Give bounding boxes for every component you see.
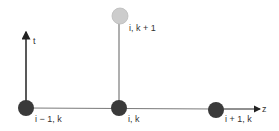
stencil-diagram: t z i − 1, k i, k i + 1, k i, k + 1	[0, 0, 279, 131]
label-i-k-plus-1: i, k + 1	[129, 23, 156, 33]
z-axis-label: z	[262, 104, 267, 114]
label-i-plus-1-k: i + 1, k	[225, 114, 252, 124]
t-axis-label: t	[33, 36, 36, 46]
label-i-minus-1-k: i − 1, k	[35, 114, 62, 124]
node-i-minus-1-k	[18, 100, 34, 116]
label-i-k: i, k	[128, 114, 140, 124]
node-i-k	[111, 100, 127, 116]
node-i-plus-1-k	[208, 102, 224, 118]
node-i-k-plus-1	[112, 8, 128, 24]
